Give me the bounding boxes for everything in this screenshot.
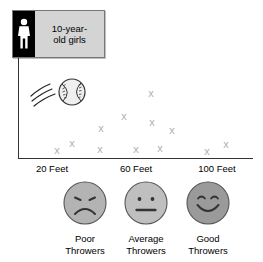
data-point: x <box>204 145 210 157</box>
data-point: x <box>98 122 104 134</box>
figure-scatter-plot-throwers: 10-year- old girls <box>0 0 263 262</box>
motion-lines-icon <box>31 84 55 106</box>
data-point: x <box>169 124 175 136</box>
baseball-icon <box>59 79 85 105</box>
face-caption-good-line2: Throwers <box>170 245 246 257</box>
neutral-face-icon <box>123 180 169 226</box>
face-caption-good: Good Throwers <box>170 233 246 256</box>
face-column-good: Good Throwers <box>170 180 246 256</box>
data-point: x <box>157 142 163 154</box>
x-tick-label-60: 60 Feet <box>100 163 172 174</box>
data-point: x <box>148 87 154 99</box>
x-tick-label-20: 20 Feet <box>16 163 88 174</box>
data-point: x <box>54 144 60 156</box>
data-point: x <box>121 110 127 122</box>
data-point: x <box>223 138 229 150</box>
happy-face-icon <box>185 180 231 226</box>
data-point: x <box>69 137 75 149</box>
data-point: x <box>149 116 155 128</box>
x-tick-label-100: 100 Feet <box>181 163 253 174</box>
face-caption-good-line1: Good <box>170 233 246 245</box>
sad-face-icon <box>62 180 108 226</box>
data-point: x <box>133 143 139 155</box>
data-point: x <box>97 143 103 155</box>
